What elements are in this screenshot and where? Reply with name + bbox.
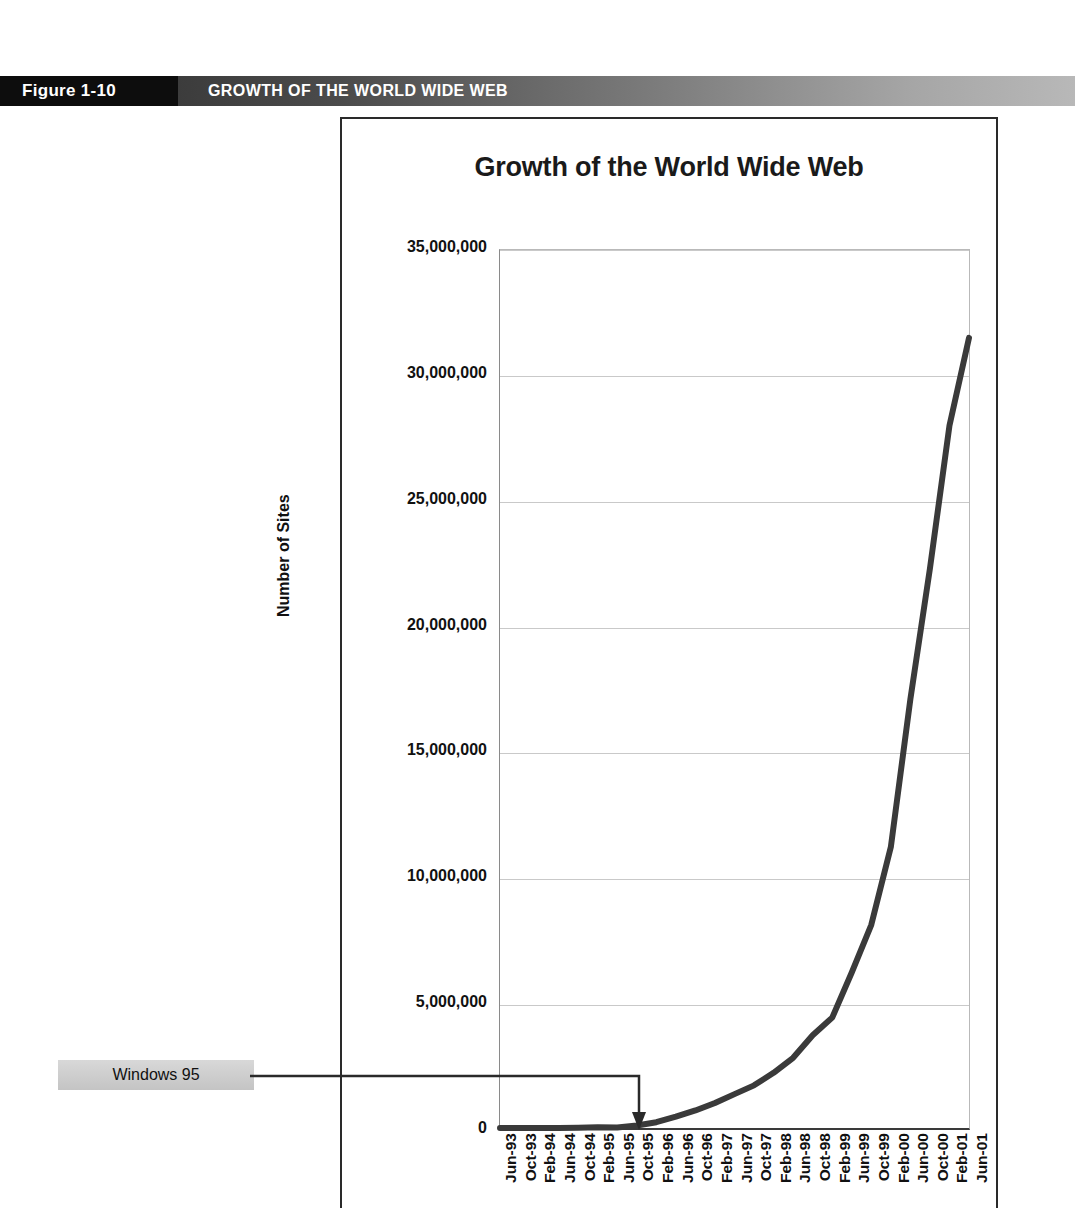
x-tick-label: Jun-93 — [502, 1133, 520, 1183]
y-tick-label: 0 — [478, 1119, 487, 1137]
figure-header-band: Figure 1-10 GROWTH OF THE WORLD WIDE WEB — [0, 76, 1075, 106]
x-tick-label: Jun-95 — [620, 1133, 638, 1183]
y-tick-label: 15,000,000 — [407, 741, 487, 759]
y-tick-label: 20,000,000 — [407, 616, 487, 634]
x-tick-label: Oct-99 — [875, 1133, 893, 1181]
x-tick-label: Oct-98 — [816, 1133, 834, 1181]
x-tick-label: Oct-96 — [698, 1133, 716, 1181]
x-axis-tick-labels: Jun-93Oct-93Feb-94Jun-94Oct-94Feb-95Jun-… — [497, 1133, 968, 1208]
y-tick-label: 25,000,000 — [407, 490, 487, 508]
x-tick-label: Jun-96 — [679, 1133, 697, 1183]
chart-line-svg — [500, 250, 969, 1128]
y-tick-label: 10,000,000 — [407, 867, 487, 885]
x-tick-label: Feb-95 — [600, 1133, 618, 1183]
x-tick-label: Oct-93 — [522, 1133, 540, 1181]
x-tick-label: Feb-98 — [777, 1133, 795, 1183]
y-tick-label: 35,000,000 — [407, 238, 487, 256]
figure-number-block: Figure 1-10 — [0, 76, 178, 106]
figure-caption-label: GROWTH OF THE WORLD WIDE WEB — [208, 82, 508, 100]
x-tick-label: Oct-95 — [639, 1133, 657, 1181]
x-tick-label: Jun-01 — [973, 1133, 991, 1183]
figure-caption-block: GROWTH OF THE WORLD WIDE WEB — [178, 76, 1075, 106]
x-tick-label: Feb-00 — [895, 1133, 913, 1183]
figure-number-label: Figure 1-10 — [22, 81, 116, 101]
x-tick-label: Oct-94 — [581, 1133, 599, 1181]
x-tick-label: Feb-01 — [953, 1133, 971, 1183]
annotation-windows-95-box: Windows 95 — [58, 1060, 254, 1090]
x-tick-label: Jun-00 — [914, 1133, 932, 1183]
y-tick-label: 30,000,000 — [407, 364, 487, 382]
x-tick-label: Feb-94 — [541, 1133, 559, 1183]
x-tick-label: Jun-97 — [738, 1133, 756, 1183]
x-tick-label: Jun-99 — [855, 1133, 873, 1183]
x-tick-label: Oct-97 — [757, 1133, 775, 1181]
x-tick-label: Feb-99 — [836, 1133, 854, 1183]
x-tick-label: Jun-98 — [796, 1133, 814, 1183]
y-axis-tick-labels: 35,000,00030,000,00025,000,00020,000,000… — [0, 117, 487, 1117]
y-axis-title: Number of Sites — [275, 494, 293, 617]
plot-area — [499, 249, 970, 1130]
x-tick-label: Jun-94 — [561, 1133, 579, 1183]
x-tick-label: Oct-00 — [934, 1133, 952, 1181]
series-line-number-of-sites — [500, 338, 969, 1128]
x-tick-label: Feb-96 — [659, 1133, 677, 1183]
y-tick-label: 5,000,000 — [416, 993, 487, 1011]
annotation-windows-95-label: Windows 95 — [112, 1066, 199, 1084]
x-tick-label: Feb-97 — [718, 1133, 736, 1183]
